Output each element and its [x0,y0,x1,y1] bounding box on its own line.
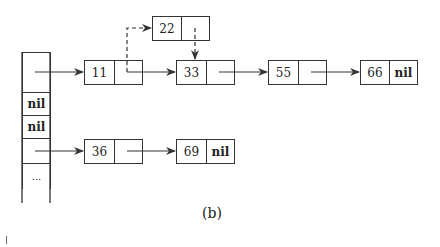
margin-mark [6,236,7,244]
node-next [206,60,235,85]
array-cell-pointer-0 [22,52,51,93]
node-key: 33 [176,60,207,85]
node-key: 69 [176,139,207,164]
node-key: 11 [84,60,115,85]
node-next [114,139,143,164]
node-next-nil: nil [206,139,235,164]
node-key: 66 [360,60,390,85]
node-key: 36 [84,139,115,164]
figure-caption: (b) [202,205,222,221]
node-next [114,60,143,85]
node-next [298,60,327,85]
array-cell-pointer-3 [22,138,51,164]
array-cell-ellipsis: ... [22,163,51,189]
node-next [181,16,210,41]
node-key: 22 [152,16,182,41]
array-cell-nil-2: nil [22,115,51,139]
node-key: 55 [268,60,299,85]
node-next-nil: nil [389,60,418,85]
array-cell-nil-1: nil [22,92,51,116]
